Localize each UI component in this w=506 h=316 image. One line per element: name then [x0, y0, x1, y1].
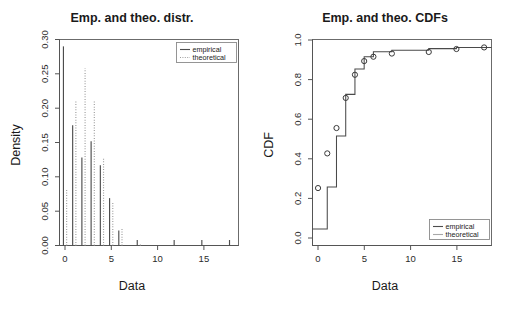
density-xtick-0: 0	[62, 253, 67, 264]
density-x-axis: 0 5 10 15	[60, 246, 239, 265]
density-bars-group	[63, 46, 229, 245]
cdf-y-axis: 0.0 0.2 0.4 0.6 0.8 1.0	[292, 33, 313, 245]
cdf-ytick-0: 0.0	[292, 231, 303, 244]
cdf-empirical-step	[313, 47, 492, 229]
cdf-legend: empirical theoretical	[430, 220, 490, 240]
density-ytick-5: 0.25	[39, 65, 50, 84]
density-ytick-1: 0.05	[39, 202, 50, 221]
theoretical-cdf-point	[325, 151, 330, 156]
cdf-legend-theoretical-label: theoretical	[446, 230, 480, 239]
theoretical-cdf-point	[315, 185, 320, 190]
density-xtick-3: 15	[199, 253, 210, 264]
density-ytick-6: 0.30	[39, 30, 50, 49]
density-xtick-2: 10	[152, 253, 163, 264]
density-legend-theoretical-label: theoretical	[193, 53, 227, 62]
density-plot-frame	[60, 40, 239, 246]
cdf-plot-frame	[313, 40, 492, 246]
figure-container: Emp. and theo. distr. Density Data 0.00 …	[0, 0, 506, 316]
cdf-ytick-3: 0.6	[292, 113, 303, 126]
density-x-axis-label: Data	[119, 279, 145, 293]
cdf-y-axis-label: CDF	[262, 132, 276, 158]
cdf-xtick-0: 0	[315, 253, 320, 264]
cdf-panel: Emp. and theo. CDFs CDF Data 0.0 0.2 0.4…	[253, 0, 506, 316]
cdf-theoretical-points-group	[315, 45, 486, 191]
cdf-ytick-5: 1.0	[292, 33, 303, 46]
density-ytick-0: 0.00	[39, 236, 50, 255]
cdf-ytick-4: 0.8	[292, 73, 303, 86]
density-y-axis: 0.00 0.05 0.10 0.15 0.20 0.25 0.30	[39, 30, 60, 255]
density-xtick-1: 5	[109, 253, 114, 264]
cdf-panel-title: Emp. and theo. CDFs	[322, 11, 448, 25]
density-ytick-4: 0.20	[39, 99, 50, 118]
density-panel-title: Emp. and theo. distr.	[71, 11, 194, 25]
cdf-ytick-1: 0.2	[292, 192, 303, 205]
cdf-ytick-2: 0.4	[292, 152, 303, 165]
density-ytick-3: 0.15	[39, 133, 50, 152]
cdf-xtick-3: 15	[452, 253, 463, 264]
density-y-axis-label: Density	[9, 123, 23, 165]
cdf-xtick-1: 5	[362, 253, 367, 264]
density-svg: Emp. and theo. distr. Density Data 0.00 …	[0, 0, 253, 316]
theoretical-cdf-point	[334, 125, 339, 130]
density-panel: Emp. and theo. distr. Density Data 0.00 …	[0, 0, 253, 316]
cdf-x-axis: 0 5 10 15	[313, 246, 492, 265]
density-ytick-2: 0.10	[39, 168, 50, 187]
density-legend: empirical theoretical	[177, 43, 237, 63]
cdf-svg: Emp. and theo. CDFs CDF Data 0.0 0.2 0.4…	[253, 0, 506, 316]
cdf-xtick-2: 10	[405, 253, 416, 264]
cdf-x-axis-label: Data	[372, 279, 398, 293]
